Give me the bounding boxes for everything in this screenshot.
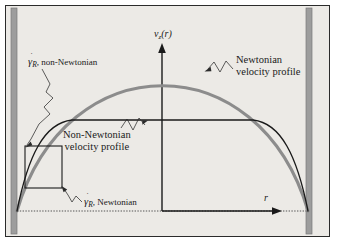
newtonian-annotation: Newtonian velocity profile [236, 54, 300, 78]
y-axis-label-arg: (r) [161, 28, 172, 39]
leader-non-newtonian-arrowhead [142, 120, 148, 125]
gamma-suffix: , non-Newtonian [37, 57, 98, 67]
y-axis-arrowhead [158, 43, 166, 53]
shear-rate-newtonian-label: ˙γR, Newtonian [84, 196, 137, 209]
x-axis-arrowhead [272, 207, 282, 215]
velocity-profile-figure: vz(r) r Newtonian velocity profile Non-N… [0, 0, 337, 250]
gamma-dot-accent: ˙ [30, 53, 33, 62]
x-axis-label: r [264, 192, 268, 203]
gamma-suffix: , Newtonian [93, 197, 137, 207]
right-wall [306, 8, 312, 234]
leader-newtonian-arrowhead [205, 67, 212, 72]
gamma-symbol: ˙γ [28, 56, 32, 67]
non-newtonian-annotation: Non-Newtonian velocity profile [63, 129, 131, 153]
leader-newtonian-label [208, 61, 233, 72]
left-wall [11, 8, 17, 234]
shear-rate-non-newtonian-label: ˙γR, non-Newtonian [28, 56, 97, 69]
gamma-dot-accent: ˙ [86, 193, 89, 202]
leader-gamma-newtonian [64, 189, 82, 202]
non-newtonian-annotation-line2: velocity profile [63, 141, 131, 153]
gamma-symbol: ˙γ [84, 196, 88, 207]
y-axis-label: vz(r) [154, 28, 172, 41]
leader-gamma-non-newtonian [27, 69, 53, 145]
leader-gamma-newtonian-arrowhead [62, 186, 68, 192]
newtonian-annotation-line2: velocity profile [236, 66, 300, 78]
non-newtonian-annotation-line1: Non-Newtonian [63, 129, 131, 141]
newtonian-annotation-line1: Newtonian [236, 54, 300, 66]
figure-plate: vz(r) r Newtonian velocity profile Non-N… [5, 5, 330, 237]
